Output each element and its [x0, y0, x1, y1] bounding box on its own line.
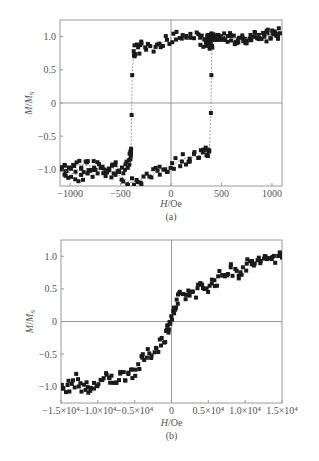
figure: 1.00.50−0.5−1.0−1000−50005001000H/Oe(a)M…	[0, 0, 319, 461]
y-tick-label: −1.0	[38, 164, 56, 175]
y-tick-label: 1.0	[44, 31, 57, 42]
x-tick-label: 0.5×10⁴	[193, 405, 225, 416]
x-tick-label: −1.0×10⁴	[79, 405, 117, 416]
y-tick-label: 1.0	[45, 251, 58, 262]
panel-caption: (b)	[166, 430, 178, 442]
x-tick-label: −500	[110, 188, 131, 199]
y-tick-label: 0	[51, 98, 56, 109]
y-tick-label: −1.0	[39, 381, 57, 392]
y-tick-label: 0.5	[44, 64, 57, 75]
panel-caption: (a)	[165, 211, 176, 223]
y-axis-label: M/MS	[23, 91, 36, 115]
y-tick-label: 0.5	[45, 283, 58, 294]
x-tick-label: 500	[214, 188, 229, 199]
x-tick-label: −1.5×10⁴	[42, 405, 80, 416]
y-tick-label: −0.5	[38, 131, 56, 142]
x-tick-label: 1.0×10⁴	[229, 405, 261, 416]
x-tick-label: 0	[169, 405, 174, 416]
x-axis-label: H/Oe	[160, 417, 183, 428]
chart-panel-b: 1.00.50−0.5−1.0−1.5×10⁴−1.0×10⁴−0.5×10⁴0…	[24, 240, 298, 442]
y-axis-label: M/MS	[24, 310, 37, 334]
x-tick-label: 1000	[262, 188, 282, 199]
y-tick-label: 0	[52, 316, 57, 327]
x-tick-label: 1.5×10⁴	[266, 405, 298, 416]
x-tick-label: −0.5×10⁴	[116, 405, 154, 416]
x-axis-label: H/Oe	[159, 198, 182, 209]
x-tick-label: −1000	[57, 188, 83, 199]
chart-panel-a: 1.00.50−0.5−1.0−1000−50005001000H/Oe(a)M…	[23, 20, 282, 223]
y-tick-label: −0.5	[39, 349, 57, 360]
